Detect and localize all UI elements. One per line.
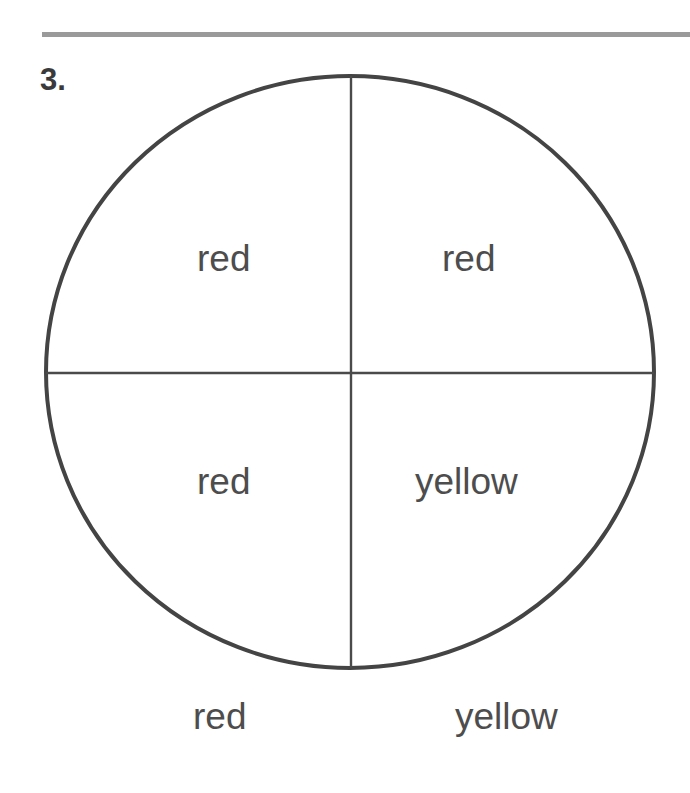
section-label-bottom-right: yellow (415, 463, 518, 500)
section-label-top-left: red (197, 240, 250, 277)
spinner-diagram (0, 0, 690, 793)
section-label-top-right: red (442, 240, 495, 277)
outcome-label-1: red (193, 698, 246, 735)
outcome-label-2: yellow (455, 698, 558, 735)
section-label-bottom-left: red (197, 463, 250, 500)
